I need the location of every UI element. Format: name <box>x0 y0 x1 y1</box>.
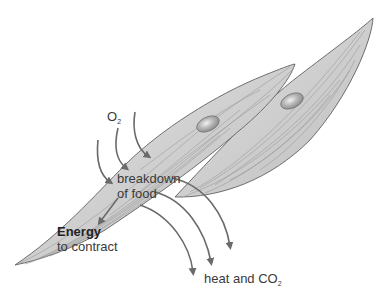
heat-co2-label: heat and CO2 <box>204 272 282 287</box>
heat-co2-label-main: heat and CO <box>204 271 278 286</box>
arrow-in-1 <box>98 140 111 182</box>
heat-co2-label-subscript: 2 <box>278 280 282 287</box>
arrow-out-1 <box>140 205 193 272</box>
muscle-cell-diagram: O2 breakdown of food Energy to contract … <box>0 0 382 303</box>
energy-description: to contract <box>57 240 118 253</box>
oxygen-label: O2 <box>107 110 121 125</box>
oxygen-label-main: O <box>107 109 117 124</box>
breakdown-label-line1: breakdown <box>117 172 181 185</box>
arrow-in-2 <box>116 128 126 168</box>
energy-label: Energy <box>57 225 101 238</box>
arrow-out-2 <box>155 192 211 262</box>
breakdown-label-line2: of food <box>117 187 157 200</box>
oxygen-label-subscript: 2 <box>117 118 121 125</box>
diagram-illustration <box>0 0 382 303</box>
